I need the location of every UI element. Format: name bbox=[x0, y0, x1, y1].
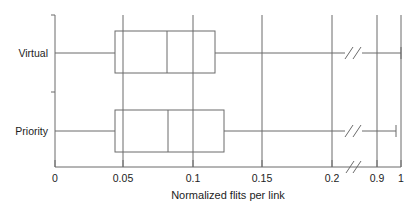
priority-break-stroke-2 bbox=[353, 125, 361, 137]
virtual-break-stroke-1 bbox=[345, 47, 353, 59]
priority-box bbox=[115, 110, 224, 152]
category-label-virtual: Virtual bbox=[18, 47, 48, 59]
virtual-break-mark bbox=[345, 47, 361, 59]
priority-break-mark bbox=[345, 125, 361, 137]
x-axis-ticks bbox=[55, 160, 401, 167]
boxplot-virtual bbox=[55, 31, 401, 73]
boxplot-priority bbox=[55, 110, 396, 152]
category-label-priority: Priority bbox=[15, 125, 48, 137]
virtual-box bbox=[115, 31, 215, 73]
boxplot-chart: Virtual Priority 0 0.05 0.1 0.15 0.2 0.9… bbox=[0, 0, 419, 215]
xtick-label-0.1: 0.1 bbox=[186, 172, 201, 184]
chart-svg: Virtual Priority 0 0.05 0.1 0.15 0.2 0.9… bbox=[0, 0, 419, 215]
virtual-break-stroke-2 bbox=[353, 47, 361, 59]
xtick-label-0.9: 0.9 bbox=[370, 172, 385, 184]
xtick-label-0.2: 0.2 bbox=[325, 172, 340, 184]
priority-break-stroke-1 bbox=[345, 125, 353, 137]
xtick-label-0: 0 bbox=[52, 172, 58, 184]
xtick-label-1: 1 bbox=[398, 172, 404, 184]
x-axis-title: Normalized flits per link bbox=[171, 189, 285, 201]
gridlines bbox=[123, 15, 401, 167]
xtick-label-0.05: 0.05 bbox=[113, 172, 134, 184]
xtick-label-0.15: 0.15 bbox=[252, 172, 273, 184]
